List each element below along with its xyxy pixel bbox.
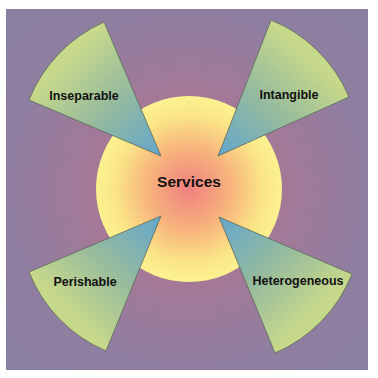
- center-label: Services: [157, 173, 221, 191]
- label-heterogeneous: Heterogeneous: [253, 274, 344, 288]
- label-intangible: Intangible: [259, 88, 318, 102]
- label-inseparable: Inseparable: [49, 89, 118, 103]
- label-perishable: Perishable: [53, 275, 116, 289]
